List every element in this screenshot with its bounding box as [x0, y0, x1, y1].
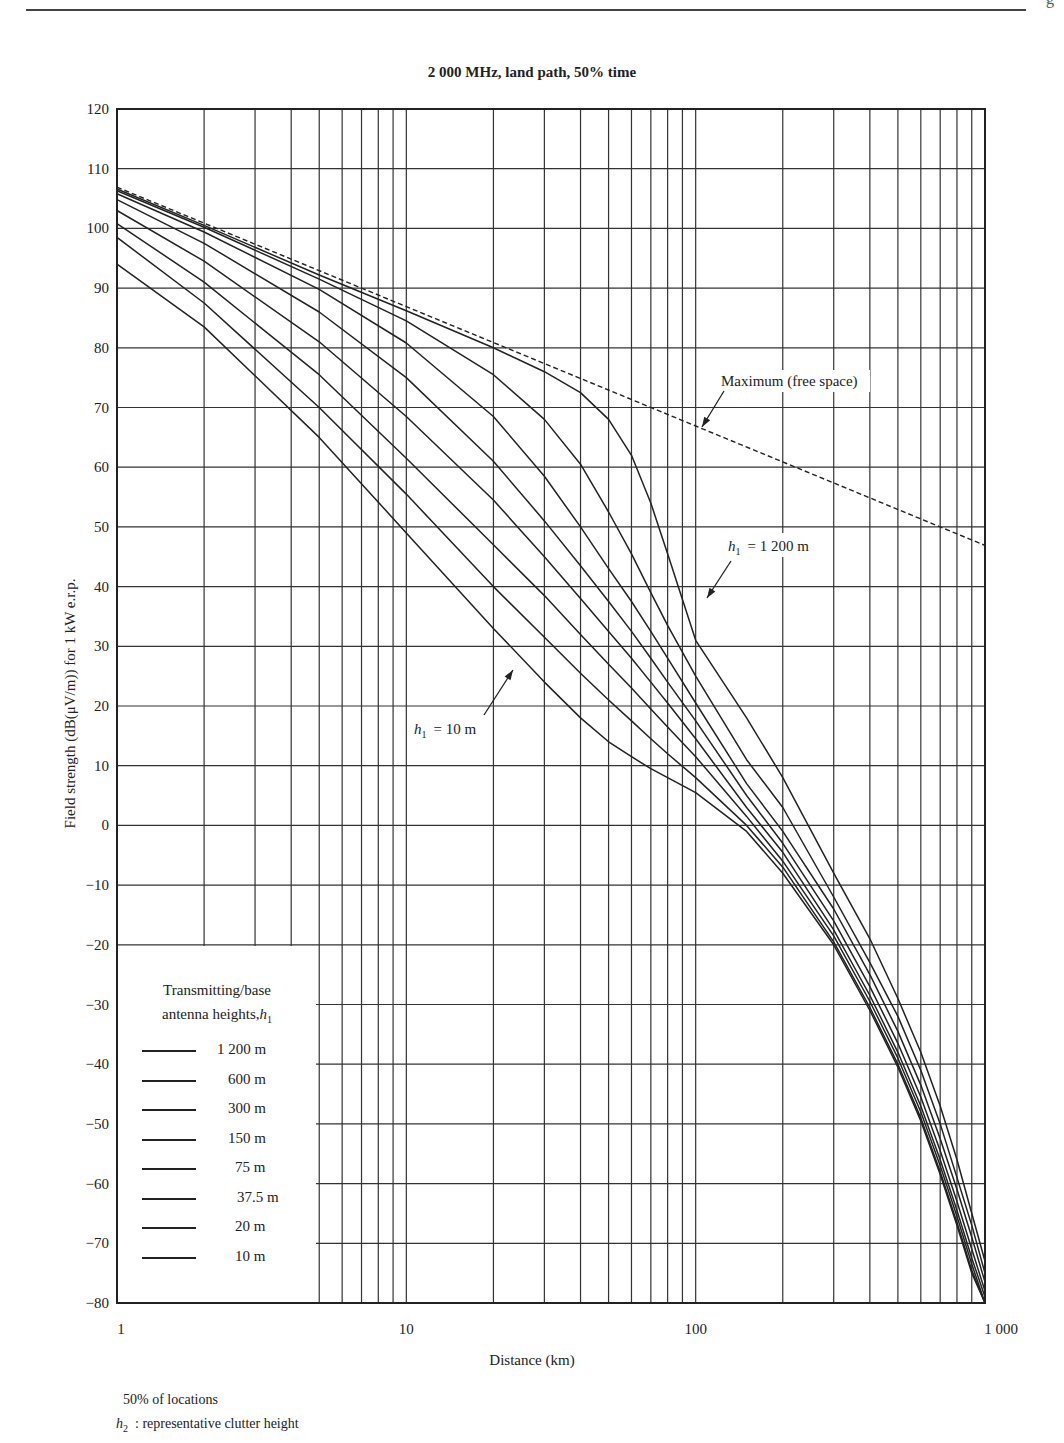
- x-tick-label: 100: [684, 1321, 707, 1337]
- y-tick-label: 100: [87, 220, 110, 236]
- arrowhead-icon: [707, 588, 715, 598]
- legend-line-swatch: [142, 1139, 196, 1141]
- series-line-maximum-free-space-: [117, 187, 985, 545]
- y-tick-label: 90: [94, 280, 109, 296]
- x-tick-label: 1 000: [984, 1321, 1018, 1337]
- y-tick-label: 80: [94, 340, 109, 356]
- legend-line-swatch: [142, 1050, 196, 1052]
- arrowhead-icon: [505, 670, 513, 680]
- y-tick-label: −50: [86, 1116, 109, 1132]
- legend-entry: 600 m: [142, 1071, 312, 1089]
- legend-label: 1 200 m: [217, 1041, 266, 1058]
- y-tick-label: −70: [86, 1235, 109, 1251]
- legend-line-swatch: [142, 1080, 196, 1082]
- legend-line-swatch: [142, 1227, 196, 1229]
- y-axis-label: Field strength (dB(μV/m)) for 1 kW e.r.p…: [62, 524, 79, 884]
- legend-label: 10 m: [235, 1248, 265, 1265]
- y-tick-label: 30: [94, 638, 109, 654]
- legend-line-swatch: [142, 1198, 196, 1200]
- y-tick-label: 120: [87, 101, 110, 117]
- chart-annotations: Maximum (free space)h1= 1 200 mh1= 10 m: [412, 370, 870, 740]
- legend-entry: 37.5 m: [142, 1189, 312, 1207]
- y-tick-label: 60: [94, 459, 109, 475]
- annotation-free-space: Maximum (free space): [721, 373, 858, 390]
- legend-title: Transmitting/base antenna heights,h1: [118, 978, 316, 1032]
- x-tick-label: 10: [399, 1321, 414, 1337]
- y-tick-label: 40: [94, 579, 109, 595]
- y-tick-label: 110: [87, 161, 109, 177]
- y-tick-label: 10: [94, 758, 109, 774]
- legend-entry: 10 m: [142, 1248, 312, 1266]
- x-tick-label: 1: [117, 1321, 125, 1337]
- y-tick-label: 0: [102, 817, 110, 833]
- chart-legend: Transmitting/base antenna heights,h1 1 2…: [118, 946, 316, 1302]
- legend-entry: 1 200 m: [142, 1041, 312, 1059]
- x-axis-label: Distance (km): [0, 1352, 1064, 1369]
- legend-label: 600 m: [228, 1071, 266, 1088]
- legend-entry: 20 m: [142, 1218, 312, 1236]
- y-tick-label: 70: [94, 400, 109, 416]
- footnote-locations: 50% of locations: [123, 1392, 218, 1408]
- y-tick-label: −80: [86, 1295, 109, 1311]
- footnote-clutter-height: h2 : representative clutter height: [116, 1416, 299, 1434]
- legend-line-swatch: [142, 1257, 196, 1259]
- legend-entry: 300 m: [142, 1100, 312, 1118]
- y-tick-label: −30: [86, 997, 109, 1013]
- legend-line-swatch: [142, 1168, 196, 1170]
- legend-line-swatch: [142, 1109, 196, 1111]
- legend-entry: 150 m: [142, 1130, 312, 1148]
- legend-label: 150 m: [228, 1130, 266, 1147]
- y-tick-label: −20: [86, 937, 109, 953]
- y-tick-label: −60: [86, 1176, 109, 1192]
- arrowhead-icon: [702, 417, 710, 427]
- y-tick-label: 20: [94, 698, 109, 714]
- legend-entry: 75 m: [142, 1159, 312, 1177]
- y-tick-label: 50: [94, 519, 109, 535]
- legend-h1-symbol: h: [259, 1006, 267, 1022]
- legend-label: 300 m: [228, 1100, 266, 1117]
- legend-label: 37.5 m: [237, 1189, 279, 1206]
- x-axis-ticks: 1101001 000: [117, 1321, 1018, 1337]
- legend-label: 20 m: [235, 1218, 265, 1235]
- legend-label: 75 m: [235, 1159, 265, 1176]
- y-tick-label: −10: [86, 877, 109, 893]
- y-axis-ticks: 1201101009080706050403020100−10−20−30−40…: [86, 101, 109, 1311]
- y-tick-label: −40: [86, 1056, 109, 1072]
